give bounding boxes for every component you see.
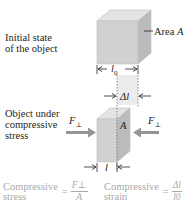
strain-name: Compressive strain	[104, 182, 159, 202]
initial-state-line1: Initial state	[5, 32, 57, 43]
l-label: l	[105, 162, 108, 173]
initial-state-label: Initial state of the object	[5, 32, 57, 54]
compressed-line2: compressive	[5, 119, 60, 130]
strain-equals: =	[163, 186, 169, 197]
stress-name: Compressive stress	[3, 182, 58, 202]
area-text: Area	[154, 26, 177, 37]
force-left-subscript: ⊥	[75, 121, 82, 129]
l0-subscript: 0	[114, 69, 118, 77]
delta-l-symbol: Δl	[120, 91, 129, 102]
delta-l-label: Δl	[120, 91, 129, 102]
strain-fraction: Δl l0	[172, 181, 182, 202]
area-symbol: A	[177, 26, 183, 37]
compressed-area-symbol: A	[120, 120, 126, 131]
force-left-label: F⊥	[69, 115, 82, 131]
l-symbol: l	[105, 162, 108, 173]
stress-denominator: A	[76, 192, 82, 202]
strain-numerator: Δl	[172, 181, 182, 192]
compressed-cube	[97, 108, 130, 162]
stress-numerator: F⊥	[71, 181, 88, 192]
area-label: Area A	[154, 26, 183, 37]
stress-formula: Compressive stress = F⊥ A	[3, 181, 88, 202]
l0-dimension	[97, 65, 138, 74]
l0-label: l0	[111, 63, 117, 79]
compressed-line1: Object under	[5, 108, 60, 119]
strain-denominator: l0	[173, 192, 180, 202]
compressed-line3: stress	[5, 130, 60, 141]
initial-cube	[97, 10, 151, 64]
strain-formula: Compressive strain = Δl l0	[104, 181, 182, 202]
compressed-state-label: Object under compressive stress	[5, 108, 60, 141]
compressed-area-label: A	[120, 120, 126, 131]
strain-name-line2: strain	[104, 192, 159, 202]
stress-name-line2: stress	[3, 192, 58, 202]
strain-name-line1: Compressive	[104, 182, 159, 192]
stress-fraction: F⊥ A	[71, 181, 88, 202]
force-right-subscript: ⊥	[154, 121, 161, 129]
stress-name-line1: Compressive	[3, 182, 58, 192]
stress-equals: =	[62, 186, 68, 197]
initial-state-line2: of the object	[5, 43, 57, 54]
force-right-label: F⊥	[148, 115, 161, 131]
